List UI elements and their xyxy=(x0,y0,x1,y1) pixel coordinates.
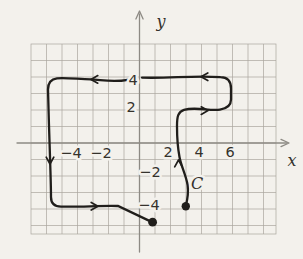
curve-c-diagram: yx−4−224642−2−4C xyxy=(0,0,303,259)
y-tick-label: −2 xyxy=(139,164,160,180)
curve-label-c: C xyxy=(191,174,203,193)
y-tick-label: 2 xyxy=(126,99,135,115)
y-tick-label: 4 xyxy=(128,72,137,88)
y-axis-label: y xyxy=(155,12,166,31)
x-tick-label: 4 xyxy=(194,144,203,160)
x-tick-label: −2 xyxy=(90,145,111,161)
x-tick-label: 2 xyxy=(163,144,172,160)
x-tick-label: −4 xyxy=(60,145,81,161)
endpoint-dot xyxy=(148,218,157,227)
coordinate-plane-figure: yx−4−224642−2−4C xyxy=(0,0,303,259)
x-tick-label: 6 xyxy=(225,144,234,160)
endpoint-dot xyxy=(182,202,190,210)
y-tick-label: −4 xyxy=(138,197,159,213)
x-axis-label: x xyxy=(287,151,296,170)
